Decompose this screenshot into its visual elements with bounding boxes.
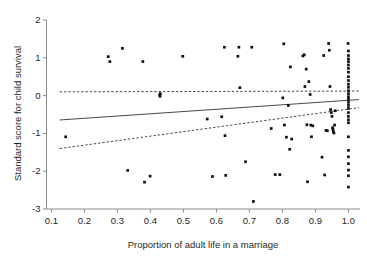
scatter-point xyxy=(310,135,313,138)
scatter-point xyxy=(143,181,146,184)
scatter-point xyxy=(347,107,350,110)
scatter-point xyxy=(347,79,350,82)
scatter-point xyxy=(347,86,350,89)
scatter-point xyxy=(149,175,152,178)
scatter-point xyxy=(305,68,308,71)
scatter-point xyxy=(347,54,350,57)
scatter-point xyxy=(181,55,184,58)
scatter-point xyxy=(244,160,247,163)
scatter-point xyxy=(250,46,253,49)
scatter-point xyxy=(327,42,330,45)
scatter-point xyxy=(331,115,334,118)
scatter-point xyxy=(64,135,67,138)
scatter-point xyxy=(211,175,214,178)
scatter-point xyxy=(323,174,326,177)
scatter-point xyxy=(239,86,242,89)
scatter-point xyxy=(283,124,286,127)
scatter-point xyxy=(347,58,350,61)
scatter-point xyxy=(252,200,255,203)
scatter-point xyxy=(159,95,162,98)
scatter-point xyxy=(223,46,226,49)
axes xyxy=(43,20,360,213)
scatter-point xyxy=(224,134,227,137)
scatter-point xyxy=(306,123,309,126)
scatter-point xyxy=(347,186,350,189)
scatter-point xyxy=(289,66,292,69)
scatter-point xyxy=(347,174,350,177)
scatter-point xyxy=(159,92,162,95)
scatter-point xyxy=(274,173,277,176)
scatter-point xyxy=(322,54,325,57)
scatter-point xyxy=(287,104,290,107)
scatter-point xyxy=(328,49,331,52)
scatter-point xyxy=(347,111,350,114)
scatter-plot-figure: 210-1-2-3 0.10.20.30.40.50.60.70.80.91.0… xyxy=(0,0,367,261)
scatter-point xyxy=(321,156,324,159)
scatter-point xyxy=(334,109,337,112)
scatter-point xyxy=(142,60,145,63)
scatter-point xyxy=(347,98,350,101)
scatter-point xyxy=(347,42,350,45)
scatter-point xyxy=(333,124,336,127)
scatter-point xyxy=(347,162,350,165)
scatter-point xyxy=(347,83,350,86)
scatter-point xyxy=(347,104,350,107)
scatter-point xyxy=(347,89,350,92)
scatter-point xyxy=(347,118,350,121)
scatter-point xyxy=(329,108,332,111)
confidence-band-upper xyxy=(60,91,359,92)
y-axis-title: Standard score for child survival xyxy=(12,19,23,209)
scatter-point xyxy=(330,111,333,114)
scatter-point xyxy=(278,173,281,176)
scatter-point xyxy=(329,85,332,88)
scatter-point xyxy=(347,75,350,78)
scatter-point xyxy=(347,115,350,118)
scatter-point xyxy=(238,46,241,49)
scatter-point xyxy=(107,55,110,58)
scatter-point xyxy=(347,64,350,67)
scatter-point xyxy=(281,97,284,100)
scatter-point xyxy=(206,118,209,121)
x-tick-label: 1.0 xyxy=(328,216,367,226)
scatter-point xyxy=(347,50,350,53)
scatter-point xyxy=(347,101,350,104)
scatter-point xyxy=(347,67,350,70)
scatter-point xyxy=(224,174,227,177)
confidence-band-lower xyxy=(60,108,359,149)
scatter-point xyxy=(333,132,336,135)
data-points xyxy=(64,42,350,203)
scatter-point xyxy=(347,169,350,172)
scatter-point xyxy=(288,148,291,151)
scatter-point xyxy=(308,80,311,83)
scatter-point xyxy=(309,93,312,96)
scatter-point xyxy=(347,60,350,63)
scatter-point xyxy=(347,155,350,158)
regression-lines xyxy=(60,91,359,148)
scatter-point xyxy=(304,85,307,88)
scatter-point xyxy=(121,47,124,50)
scatter-point xyxy=(347,92,350,95)
scatter-point xyxy=(306,180,309,183)
scatter-point xyxy=(290,138,293,141)
scatter-point xyxy=(270,127,273,130)
scatter-point xyxy=(220,115,223,118)
scatter-point xyxy=(347,121,350,124)
scatter-point xyxy=(303,53,306,56)
scatter-point xyxy=(285,136,288,139)
scatter-point xyxy=(126,169,129,172)
scatter-point xyxy=(311,124,314,127)
scatter-point xyxy=(237,55,240,58)
scatter-point xyxy=(326,129,329,132)
scatter-point xyxy=(109,60,112,63)
scatter-point xyxy=(347,149,350,152)
scatter-point xyxy=(347,71,350,74)
scatter-point xyxy=(347,135,350,138)
scatter-point xyxy=(282,42,285,45)
x-axis-title: Proportion of adult life in a marriage xyxy=(46,239,360,250)
scatter-point xyxy=(347,95,350,98)
regression-fit-line xyxy=(60,100,359,120)
